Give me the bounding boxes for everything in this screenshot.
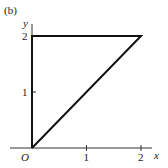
- x-tick-label: 2: [138, 151, 144, 163]
- y-tick-label: 2: [22, 30, 28, 42]
- panel-label: (b): [4, 4, 17, 17]
- y-axis-label: y: [22, 17, 28, 29]
- x-axis-label: x: [153, 149, 159, 161]
- diagram-canvas: (b) y x O 1212: [0, 0, 168, 168]
- triangle-region-outline: [32, 36, 141, 148]
- y-tick-label: 1: [22, 86, 28, 98]
- origin-label: O: [21, 151, 29, 163]
- x-tick-label: 1: [84, 151, 90, 163]
